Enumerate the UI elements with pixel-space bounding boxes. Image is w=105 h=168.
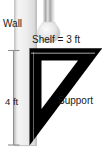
wall-height-label: 4 ft <box>5 97 18 107</box>
wall-label: Wall <box>3 19 22 29</box>
support-label: Support <box>58 96 93 106</box>
shelf-bracket-diagram: Wall Shelf = 3 ft 4 ft Support <box>0 0 105 168</box>
shelf-length-label: Shelf = 3 ft <box>32 35 80 45</box>
